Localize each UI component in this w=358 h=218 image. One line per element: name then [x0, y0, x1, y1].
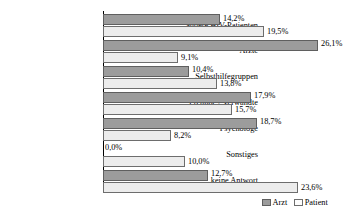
legend-label-arzt: Arzt: [273, 198, 288, 207]
value-label-arzt-freunde-verwandte: 17,9%: [254, 91, 275, 100]
bar-patient-selbsthilfegruppen[interactable]: [103, 78, 217, 89]
value-label-patient-psychologe: 8,2%: [174, 131, 191, 140]
chart-legend: Arzt Patient: [262, 198, 328, 207]
bar-arzt-freunde-verwandte[interactable]: [103, 92, 251, 103]
bar-patient-andere-hiv-patienten[interactable]: [103, 26, 264, 37]
value-label-arzt-aerzte: 26,1%: [321, 39, 342, 48]
value-label-patient-keine-antwort: 23,6%: [301, 183, 322, 192]
legend-swatch-patient-icon: [294, 199, 303, 206]
legend-swatch-arzt-icon: [262, 199, 271, 206]
horizontal-bar-chart: andere HIV-Patienten Ärzte Selbsthilfegr…: [0, 0, 358, 218]
value-label-patient-sonstiges: 10,0%: [188, 157, 209, 166]
legend-item-patient[interactable]: Patient: [294, 198, 328, 207]
bar-patient-freunde-verwandte[interactable]: [103, 104, 232, 115]
value-label-patient-aerzte: 9,1%: [181, 53, 198, 62]
bar-arzt-keine-antwort[interactable]: [103, 170, 208, 181]
bar-arzt-andere-hiv-patienten[interactable]: [103, 14, 220, 25]
value-label-arzt-andere-hiv-patienten: 14,2%: [223, 14, 244, 23]
bar-patient-psychologe[interactable]: [103, 130, 171, 141]
bar-patient-aerzte[interactable]: [103, 52, 178, 63]
legend-label-patient: Patient: [305, 198, 328, 207]
value-label-patient-freunde-verwandte: 15,7%: [235, 105, 256, 114]
legend-item-arzt[interactable]: Arzt: [262, 198, 287, 207]
value-label-arzt-sonstiges: 0,0%: [105, 143, 122, 152]
value-label-patient-andere-hiv-patienten: 19,5%: [267, 27, 288, 36]
bar-arzt-aerzte[interactable]: [103, 40, 318, 51]
bar-patient-keine-antwort[interactable]: [103, 182, 298, 193]
value-label-arzt-psychologe: 18,7%: [260, 117, 281, 126]
bar-arzt-selbsthilfegruppen[interactable]: [103, 66, 189, 77]
bar-arzt-psychologe[interactable]: [103, 118, 257, 129]
value-label-arzt-keine-antwort: 12,7%: [211, 169, 232, 178]
value-label-patient-selbsthilfegruppen: 13,8%: [220, 79, 241, 88]
value-label-arzt-selbsthilfegruppen: 10,4%: [192, 65, 213, 74]
bar-patient-sonstiges[interactable]: [103, 156, 185, 167]
